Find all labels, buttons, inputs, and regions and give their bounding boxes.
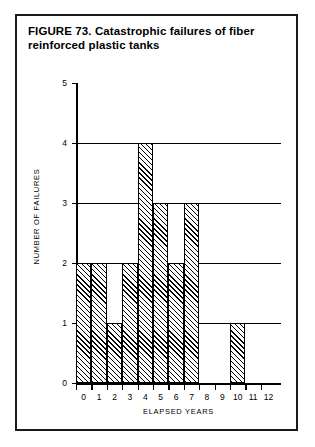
x-tick-label-8: 8 <box>199 393 215 402</box>
x-tick-3 <box>122 384 123 390</box>
figure-frame: FIGURE 73. Catastrophic failures of fibe… <box>15 14 298 431</box>
figure-caption: FIGURE 73. Catastrophic failures of fibe… <box>28 24 286 53</box>
y-tick-5 <box>72 83 77 84</box>
x-tick-5 <box>153 384 154 390</box>
bar-year-7 <box>184 203 199 383</box>
x-tick-label-6: 6 <box>168 393 184 402</box>
bar-year-5 <box>153 203 168 383</box>
chart-plot-area: 012345 0123456789101112 ELAPSED YEARS NU… <box>17 62 296 429</box>
bar-year-0 <box>76 263 91 383</box>
y-tick-3 <box>72 203 77 204</box>
x-axis-title: ELAPSED YEARS <box>76 407 281 416</box>
x-tick-label-3: 3 <box>122 393 138 402</box>
y-axis-title: NUMBER OF FAILURES <box>32 152 41 282</box>
bar-year-3 <box>122 263 137 383</box>
bar-year-10 <box>230 323 245 383</box>
y-tick-4 <box>72 143 77 144</box>
x-tick-2 <box>107 384 108 390</box>
x-tick-label-12: 12 <box>261 393 277 402</box>
bar-year-6 <box>168 263 183 383</box>
x-tick-10 <box>230 384 231 390</box>
x-tick-label-7: 7 <box>184 393 200 402</box>
x-tick-0 <box>76 384 77 390</box>
x-tick-label-11: 11 <box>245 393 261 402</box>
x-tick-9 <box>215 384 216 390</box>
x-tick-label-5: 5 <box>153 393 169 402</box>
x-tick-8 <box>199 384 200 390</box>
x-tick-11 <box>245 384 246 390</box>
y-tick-label-0: 0 <box>51 379 67 388</box>
x-tick-label-0: 0 <box>76 393 92 402</box>
x-tick-1 <box>91 384 92 390</box>
bar-year-2 <box>107 323 122 383</box>
x-tick-label-4: 4 <box>137 393 153 402</box>
y-tick-label-5: 5 <box>51 79 67 88</box>
x-tick-12 <box>261 384 262 390</box>
x-tick-label-2: 2 <box>107 393 123 402</box>
x-tick-label-1: 1 <box>91 393 107 402</box>
x-tick-7 <box>184 384 185 390</box>
bar-year-4 <box>138 143 153 383</box>
x-tick-label-9: 9 <box>214 393 230 402</box>
y-tick-label-4: 4 <box>51 139 67 148</box>
bar-year-1 <box>91 263 106 383</box>
y-tick-label-2: 2 <box>51 259 67 268</box>
y-tick-label-1: 1 <box>51 319 67 328</box>
x-tick-6 <box>168 384 169 390</box>
gridline-y-3 <box>76 203 281 204</box>
x-tick-4 <box>138 384 139 390</box>
y-tick-label-3: 3 <box>51 199 67 208</box>
x-tick-label-10: 10 <box>230 393 246 402</box>
gridline-y-4 <box>76 143 281 144</box>
